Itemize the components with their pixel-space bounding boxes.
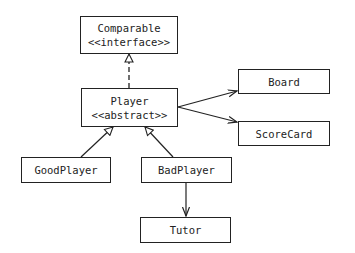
class-name: Player [111,94,149,108]
class-name: ScoreCard [256,127,313,141]
class-scorecard: ScoreCard [238,121,330,146]
association-player-board [178,91,237,107]
class-stereotype: <<abstract>> [92,108,168,122]
inheritance-badplayer-player [145,127,173,157]
class-player: Player <<abstract>> [81,88,178,127]
class-name: Comparable [97,21,160,35]
association-player-scorecard [178,107,237,122]
class-goodplayer: GoodPlayer [21,157,111,183]
class-comparable: Comparable <<interface>> [80,16,178,54]
class-name: Board [268,75,300,89]
class-board: Board [238,69,330,94]
class-name: BadPlayer [158,163,215,177]
class-name: Tutor [170,223,202,237]
class-stereotype: <<interface>> [88,35,170,49]
inheritance-goodplayer-player [81,127,113,157]
class-name: GoodPlayer [34,163,97,177]
class-tutor: Tutor [140,217,231,243]
class-badplayer: BadPlayer [141,157,232,183]
